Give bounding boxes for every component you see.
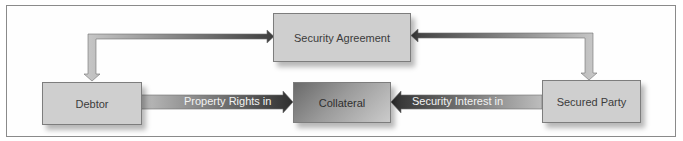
securedparty-agreement-arrow: [411, 29, 597, 80]
debtor-agreement-arrow: [84, 30, 274, 81]
debtor-label: Debtor: [75, 98, 108, 110]
collateral-box: Collateral: [293, 82, 391, 123]
security-agreement-label: Security Agreement: [294, 32, 390, 44]
property-rights-label: Property Rights in: [184, 95, 271, 107]
secured-party-box: Secured Party: [542, 80, 641, 123]
secured-party-label: Secured Party: [557, 96, 627, 108]
debtor-box: Debtor: [42, 82, 142, 125]
security-interest-label: Security Interest in: [412, 95, 503, 107]
security-agreement-box: Security Agreement: [273, 13, 411, 62]
collateral-label: Collateral: [319, 97, 365, 109]
